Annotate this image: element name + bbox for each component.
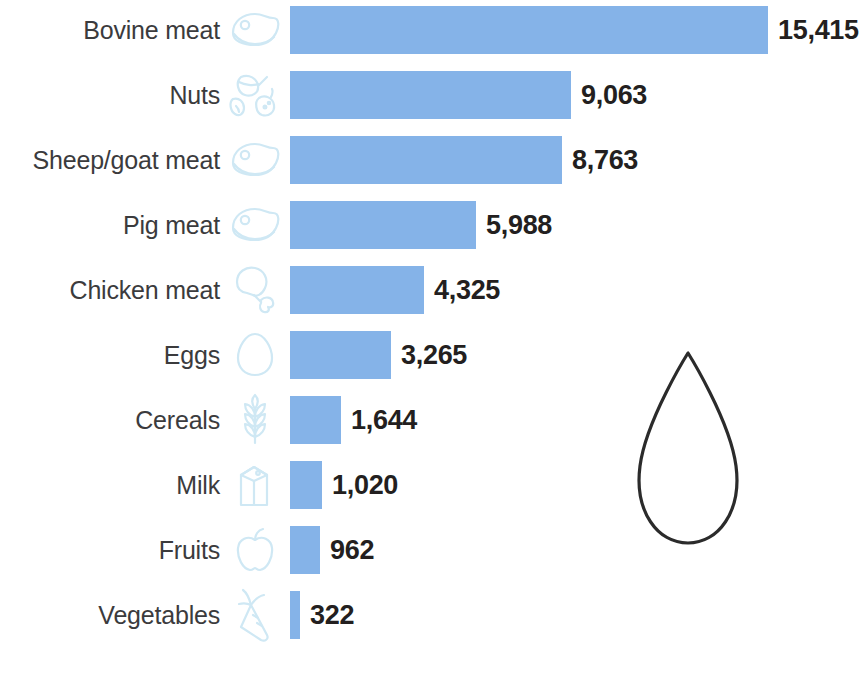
value-label: 8,763 bbox=[572, 136, 638, 184]
value-bar bbox=[290, 331, 391, 379]
chart-row: Chicken meat4,325 bbox=[0, 266, 866, 314]
value-bar bbox=[290, 71, 571, 119]
category-label: Milk bbox=[0, 471, 220, 499]
value-label: 4,325 bbox=[434, 266, 500, 314]
category-label: Vegetables bbox=[0, 601, 220, 629]
value-bar bbox=[290, 6, 768, 54]
value-label: 5,988 bbox=[486, 201, 552, 249]
category-label: Chicken meat bbox=[0, 276, 220, 304]
value-bar bbox=[290, 461, 322, 509]
wheat-icon bbox=[226, 394, 284, 446]
value-bar bbox=[290, 526, 320, 574]
water-droplet-icon bbox=[630, 348, 746, 548]
nuts-icon bbox=[226, 69, 284, 121]
value-bar bbox=[290, 201, 476, 249]
value-bar bbox=[290, 136, 562, 184]
value-bar bbox=[290, 266, 424, 314]
chart-row: Nuts9,063 bbox=[0, 71, 866, 119]
category-label: Nuts bbox=[0, 81, 220, 109]
category-label: Cereals bbox=[0, 406, 220, 434]
steak-icon bbox=[226, 4, 284, 56]
chart-row: Sheep/goat meat8,763 bbox=[0, 136, 866, 184]
apple-icon bbox=[226, 524, 284, 576]
value-label: 15,415 bbox=[778, 6, 859, 54]
steak-icon bbox=[226, 134, 284, 186]
value-label: 1,644 bbox=[351, 396, 417, 444]
chart-row: Vegetables322 bbox=[0, 591, 866, 639]
chart-row: Bovine meat15,415 bbox=[0, 6, 866, 54]
horizontal-bar-chart: Bovine meat15,415Nuts9,063Sheep/goat mea… bbox=[0, 0, 866, 683]
value-label: 1,020 bbox=[332, 461, 398, 509]
category-label: Bovine meat bbox=[0, 16, 220, 44]
steak-icon bbox=[226, 199, 284, 251]
value-label: 322 bbox=[310, 591, 354, 639]
category-label: Sheep/goat meat bbox=[0, 146, 220, 174]
milk-carton-icon bbox=[226, 459, 284, 511]
category-label: Fruits bbox=[0, 536, 220, 564]
category-label: Pig meat bbox=[0, 211, 220, 239]
value-bar bbox=[290, 591, 300, 639]
value-label: 3,265 bbox=[401, 331, 467, 379]
value-label: 962 bbox=[330, 526, 374, 574]
chart-row: Pig meat5,988 bbox=[0, 201, 866, 249]
carrot-icon bbox=[226, 589, 284, 641]
value-bar bbox=[290, 396, 341, 444]
category-label: Eggs bbox=[0, 341, 220, 369]
drumstick-icon bbox=[226, 264, 284, 316]
egg-icon bbox=[226, 329, 284, 381]
value-label: 9,063 bbox=[581, 71, 647, 119]
